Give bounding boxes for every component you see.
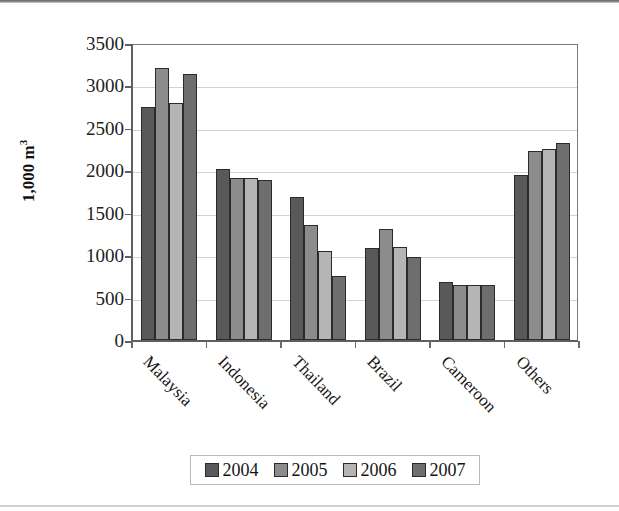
gridline [132, 300, 577, 301]
bar-indonesia-2005 [230, 178, 244, 340]
bar-cameroon-2007 [481, 285, 495, 340]
chart-legend: 2004200520062007 [190, 455, 480, 485]
plot-frame [131, 44, 578, 341]
legend-label-2007: 2007 [430, 461, 466, 479]
y-tick-mark [125, 86, 131, 88]
bar-thailand-2005 [304, 225, 318, 340]
x-tick-label-cameroon: Cameroon [437, 352, 501, 417]
y-tick-label: 3000 [60, 76, 124, 95]
legend-label-2004: 2004 [223, 461, 259, 479]
legend-swatch-icon-2004 [205, 463, 219, 477]
legend-item-2005[interactable]: 2005 [274, 461, 328, 479]
x-tick-mark [280, 341, 282, 348]
bar-indonesia-2006 [244, 178, 258, 340]
y-tick-label: 1000 [60, 246, 124, 265]
bar-malaysia-2007 [183, 74, 197, 340]
bar-others-2006 [542, 149, 556, 340]
x-tick-mark [429, 341, 431, 348]
x-tick-label-others: Others [511, 352, 557, 398]
legend-swatch-icon-2007 [412, 463, 426, 477]
bar-brazil-2005 [379, 229, 393, 340]
legend-item-2004[interactable]: 2004 [205, 461, 259, 479]
y-tick-mark [125, 214, 131, 216]
bar-brazil-2007 [407, 257, 421, 340]
bar-malaysia-2004 [141, 107, 155, 340]
bar-indonesia-2007 [258, 180, 272, 340]
y-tick-mark [125, 171, 131, 173]
bar-others-2007 [556, 143, 570, 340]
y-tick-mark [125, 44, 131, 46]
gridline [132, 87, 577, 88]
x-tick-mark [504, 341, 506, 348]
x-tick-label-malaysia: Malaysia [139, 352, 197, 411]
bar-cameroon-2006 [467, 285, 481, 340]
y-axis-ticks: 0500100015002000250030003500 [54, 0, 124, 511]
bar-thailand-2004 [290, 197, 304, 340]
gridline [132, 215, 577, 216]
gridline [132, 130, 577, 131]
legend-item-2007[interactable]: 2007 [412, 461, 466, 479]
legend-label-2006: 2006 [361, 461, 397, 479]
x-tick-label-brazil: Brazil [362, 352, 405, 396]
y-tick-mark [125, 129, 131, 131]
bar-others-2004 [514, 175, 528, 340]
y-tick-label: 2000 [60, 161, 124, 180]
bar-thailand-2007 [332, 276, 346, 340]
y-tick-label: 1500 [60, 204, 124, 223]
x-tick-mark [206, 341, 208, 348]
legend-item-2006[interactable]: 2006 [343, 461, 397, 479]
y-axis-line [131, 44, 133, 341]
bar-malaysia-2005 [155, 68, 169, 340]
gridline [132, 257, 577, 258]
bar-thailand-2006 [318, 251, 332, 340]
gridline [132, 172, 577, 173]
y-tick-label: 2500 [60, 119, 124, 138]
bar-cameroon-2004 [439, 282, 453, 340]
y-tick-mark [125, 256, 131, 258]
y-axis-title: 1,000 m3 [17, 101, 39, 241]
bar-cameroon-2005 [453, 285, 467, 340]
bar-malaysia-2006 [169, 103, 183, 340]
y-tick-label: 500 [60, 289, 124, 308]
x-tick-mark [131, 341, 133, 348]
y-tick-label: 0 [60, 331, 124, 350]
bar-brazil-2004 [365, 248, 379, 340]
legend-label-2005: 2005 [292, 461, 328, 479]
y-tick-mark [125, 299, 131, 301]
bar-chart: 0500100015002000250030003500 1,000 m3 Ma… [0, 0, 619, 511]
x-tick-mark [578, 341, 580, 348]
legend-swatch-icon-2006 [343, 463, 357, 477]
x-tick-label-thailand: Thailand [288, 352, 344, 409]
x-tick-label-indonesia: Indonesia [213, 352, 273, 413]
x-tick-mark [355, 341, 357, 348]
y-tick-label: 3500 [60, 34, 124, 53]
bar-brazil-2006 [393, 247, 407, 340]
legend-swatch-icon-2005 [274, 463, 288, 477]
bar-indonesia-2004 [216, 169, 230, 340]
bar-others-2005 [528, 151, 542, 340]
